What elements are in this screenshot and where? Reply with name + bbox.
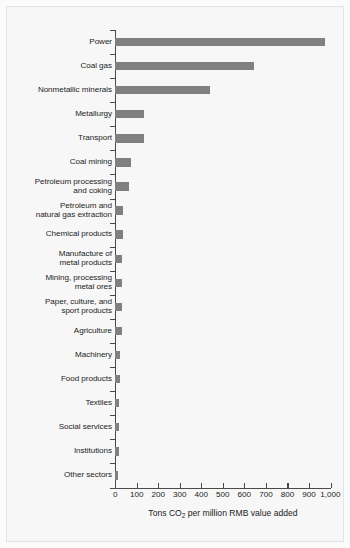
bar <box>115 255 122 263</box>
x-axis-tick <box>309 483 310 488</box>
category-label: Nonmetallic minerals <box>38 85 112 94</box>
category-label: Coal gas <box>80 61 112 70</box>
bar <box>115 327 121 335</box>
category-label: Institutions <box>74 446 112 455</box>
bar <box>115 158 131 166</box>
y-axis-tick <box>110 439 115 440</box>
bar <box>115 351 120 359</box>
category-label: Petroleum and natural gas extraction <box>36 201 112 220</box>
x-axis-tick-label: 200 <box>151 490 165 499</box>
bar <box>115 471 118 479</box>
bar <box>115 62 254 70</box>
x-axis-tick-label: 700 <box>259 490 273 499</box>
x-axis-tick <box>331 483 332 488</box>
bar <box>115 375 120 383</box>
y-axis-tick <box>110 126 115 127</box>
bar <box>115 230 123 238</box>
x-axis-tick <box>180 483 181 488</box>
x-axis-title-post: per million RMB value added <box>185 508 297 518</box>
category-label: Social services <box>59 422 112 431</box>
x-axis-tick <box>158 483 159 488</box>
y-axis-tick <box>110 271 115 272</box>
bar <box>115 423 119 431</box>
bar <box>115 279 121 287</box>
y-axis-tick <box>110 367 115 368</box>
x-axis-tick <box>223 483 224 488</box>
bar <box>115 303 121 311</box>
x-axis-tick-label: 0 <box>113 490 118 499</box>
category-label: Metallurgy <box>75 109 112 118</box>
x-axis-tick-label: 600 <box>238 490 252 499</box>
category-label: Transport <box>78 133 112 142</box>
category-label: Textiles <box>85 398 112 407</box>
y-axis-tick <box>110 223 115 224</box>
category-label: Chemical products <box>46 229 112 238</box>
bar <box>115 110 144 118</box>
figure: Tons CO2 per million RMB value added Pow… <box>0 0 350 548</box>
y-axis-tick <box>110 30 115 31</box>
bar <box>115 86 210 94</box>
x-axis-tick-label: 300 <box>173 490 187 499</box>
x-axis-title: Tons CO2 per million RMB value added <box>115 508 331 518</box>
x-axis-tick-label: 400 <box>195 490 209 499</box>
x-axis-tick-label: 100 <box>130 490 144 499</box>
y-axis-tick <box>110 54 115 55</box>
y-axis-tick <box>110 343 115 344</box>
y-axis-tick <box>110 174 115 175</box>
y-axis-tick <box>110 150 115 151</box>
x-axis-tick <box>244 483 245 488</box>
bar <box>115 447 118 455</box>
category-label: Coal mining <box>70 157 112 166</box>
x-axis-title-pre: Tons CO <box>148 508 181 518</box>
category-label: Manufacture of metal products <box>59 249 112 268</box>
bar <box>115 399 119 407</box>
y-axis-tick <box>110 488 115 489</box>
y-axis-tick <box>110 391 115 392</box>
x-axis-tick <box>115 483 116 488</box>
x-axis-tick <box>266 483 267 488</box>
category-label: Food products <box>61 374 112 383</box>
y-axis-tick <box>110 415 115 416</box>
category-label: Machinery <box>75 350 112 359</box>
category-label: Petroleum processing and coking <box>35 177 112 196</box>
bar <box>115 182 129 190</box>
x-axis-tick-label: 1,000 <box>320 490 340 499</box>
x-axis-tick <box>287 483 288 488</box>
y-axis-tick <box>110 102 115 103</box>
bar <box>115 134 144 142</box>
y-axis-tick <box>110 78 115 79</box>
x-axis-tick <box>137 483 138 488</box>
bar <box>115 206 123 214</box>
y-axis-tick <box>110 463 115 464</box>
y-axis-tick <box>110 319 115 320</box>
category-label: Agriculture <box>74 326 112 335</box>
plot-area: Tons CO2 per million RMB value added Pow… <box>0 0 350 548</box>
category-label: Mining, processing metal ores <box>45 273 112 292</box>
x-axis-tick-label: 800 <box>281 490 295 499</box>
x-axis-tick <box>201 483 202 488</box>
y-axis-tick <box>110 199 115 200</box>
category-label: Paper, culture, and sport products <box>45 297 112 316</box>
y-axis-tick <box>110 247 115 248</box>
x-axis-tick-label: 500 <box>216 490 230 499</box>
category-label: Other sectors <box>64 470 112 479</box>
x-axis-title-subscript: 2 <box>182 512 186 519</box>
x-axis-tick-label: 900 <box>302 490 316 499</box>
y-axis-tick <box>110 295 115 296</box>
bar <box>115 38 325 46</box>
category-label: Power <box>89 37 112 46</box>
